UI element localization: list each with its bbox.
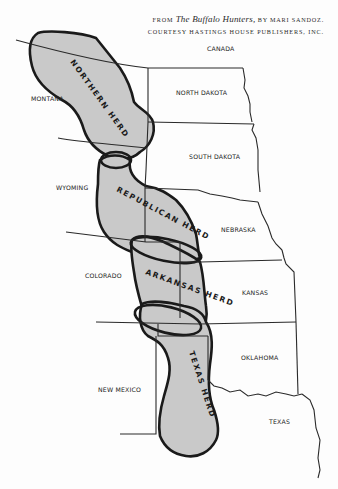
label-kansas: KANSAS	[242, 289, 268, 296]
label-canada: CANADA	[207, 45, 235, 52]
south-dakota-east-border	[252, 124, 260, 192]
label-texas: TEXAS	[268, 418, 290, 425]
texas-herd-region	[140, 302, 218, 457]
nebraska-east-border	[258, 202, 282, 250]
new-mexico-east-border	[120, 336, 156, 434]
label-nebraska: NEBRASKA	[221, 226, 256, 233]
label-colorado: COLORADO	[85, 272, 122, 279]
north-dakota-east-border	[243, 68, 252, 122]
nd-sd-border	[148, 122, 254, 124]
red-river-border	[208, 380, 302, 396]
label-oklahoma: OKLAHOMA	[241, 354, 279, 361]
texas-east-border	[302, 394, 320, 478]
label-south-dakota: SOUTH DAKOTA	[189, 153, 241, 160]
kansas-east-border	[282, 250, 296, 322]
label-north-dakota: NORTH DAKOTA	[176, 89, 228, 96]
map-figure: FROM The Buffalo Hunters, BY MARI SANDOZ…	[0, 0, 338, 489]
label-new-mexico: NEW MEXICO	[98, 386, 141, 393]
label-wyoming: WYOMING	[56, 184, 88, 191]
oklahoma-east-border	[296, 322, 298, 394]
buffalo-herds-map: CANADA MONTANA NORTH DAKOTA SOUTH DAKOTA…	[0, 0, 338, 489]
label-montana: MONTANA	[31, 95, 64, 102]
